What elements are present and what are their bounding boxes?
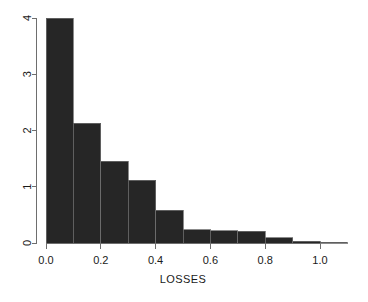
histogram-bar — [210, 231, 237, 243]
histogram-bar — [183, 230, 210, 244]
histogram-bar — [101, 161, 128, 243]
histogram-bar — [46, 18, 73, 243]
histogram-bar — [293, 241, 320, 243]
histogram-bar — [238, 231, 265, 243]
y-axis-tick-label: 1 — [21, 184, 33, 190]
y-axis-tick-label: 0 — [21, 240, 33, 246]
histogram-bar — [320, 242, 347, 243]
histogram-bar — [73, 123, 100, 243]
histogram-plot: 0.00.20.40.60.81.0 01234 LOSSES — [0, 0, 368, 302]
x-axis-tick-label: 0.0 — [38, 254, 53, 266]
x-axis-tick-label: 0.8 — [258, 254, 273, 266]
x-axis-tick-label: 0.4 — [148, 254, 163, 266]
histogram-bar — [265, 238, 292, 243]
y-axis-tick-label: 3 — [21, 71, 33, 77]
x-axis-tick-label: 0.6 — [203, 254, 218, 266]
x-axis-tick-label: 1.0 — [312, 254, 327, 266]
y-axis-tick-label: 2 — [21, 127, 33, 133]
y-axis-tick-label: 4 — [21, 15, 33, 21]
histogram-bar — [156, 210, 183, 243]
plot-canvas: 0.00.20.40.60.81.0 01234 LOSSES — [0, 0, 368, 302]
x-axis-title: LOSSES — [160, 273, 206, 285]
x-axis-tick-label: 0.2 — [93, 254, 108, 266]
histogram-bar — [128, 180, 155, 243]
